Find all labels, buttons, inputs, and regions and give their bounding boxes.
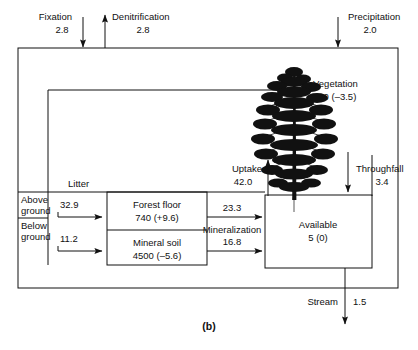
flow-denitrification: Denitrification 2.8 [105, 11, 170, 48]
stream-value: 1.5 [353, 296, 366, 307]
mineralization-label: Mineralization [203, 224, 262, 235]
below-ground-label-line1: Below [21, 220, 47, 231]
uptake-label: Uptake [232, 163, 262, 174]
precipitation-label: Precipitation [348, 11, 400, 22]
below-ground-value: 11.2 [60, 233, 78, 244]
litter-below-ground: Below ground 11.2 [21, 220, 102, 251]
fixation-value: 2.8 [55, 24, 68, 35]
nitrogen-cycle-diagram: Fixation 2.8 Denitrification 2.8 Precipi… [0, 0, 418, 350]
litter-above-ground: Above ground 32.9 [21, 194, 102, 217]
flow-mineralization-mineral-soil: Mineralization 16.8 [203, 224, 262, 251]
fixation-label: Fixation [39, 11, 72, 22]
above-ground-value: 32.9 [60, 199, 79, 210]
denitrification-label: Denitrification [112, 11, 170, 22]
compartment-mineral-soil: Mineral soil 4500 (–5.6) [133, 237, 182, 261]
above-ground-label-line1: Above [21, 194, 48, 205]
stream-label: Stream [307, 296, 338, 307]
precipitation-value: 2.0 [363, 24, 376, 35]
throughfall-label: Throughfall [356, 163, 404, 174]
uptake-value: 42.0 [234, 176, 253, 187]
compartment-vegetation: Vegetation 560 (–3.5) [313, 78, 358, 102]
flow-stream: Stream 1.5 [307, 268, 366, 324]
forest-floor-label: Forest floor [133, 199, 181, 210]
litter-label: Litter [68, 178, 89, 189]
flow-precipitation: Precipitation 2.0 [338, 11, 400, 47]
compartment-available: Available 5 (0) [299, 219, 337, 243]
mineralization-mineral-soil-value: 16.8 [223, 236, 242, 247]
figure-caption: (b) [202, 320, 215, 332]
forest-floor-value: 740 (+9.6) [135, 212, 179, 223]
below-ground-label-line2: ground [21, 231, 51, 242]
flow-mineralization-forest-floor: 23.3 [207, 202, 262, 217]
flow-fixation: Fixation 2.8 [39, 11, 83, 47]
vegetation-label: Vegetation [313, 78, 358, 89]
mineralization-forest-floor-value: 23.3 [223, 202, 242, 213]
available-value: 5 (0) [308, 232, 328, 243]
vegetation-value: 560 (–3.5) [313, 91, 356, 102]
flow-throughfall: Throughfall 3.4 [348, 152, 404, 196]
mineral-soil-label: Mineral soil [133, 237, 181, 248]
flow-uptake: Uptake 42.0 [232, 160, 268, 196]
denitrification-value: 2.8 [136, 24, 149, 35]
throughfall-value: 3.4 [375, 176, 388, 187]
mineral-soil-value: 4500 (–5.6) [133, 250, 182, 261]
compartment-forest-floor: Forest floor 740 (+9.6) [133, 199, 181, 223]
available-label: Available [299, 219, 337, 230]
above-ground-label-line2: ground [21, 205, 51, 216]
